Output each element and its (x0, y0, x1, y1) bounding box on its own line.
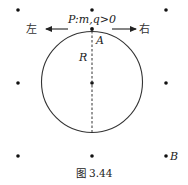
radius-label: R (78, 51, 87, 64)
field-dot (16, 154, 20, 158)
field-dot (90, 8, 94, 12)
left-label: 左 (26, 23, 37, 36)
particle-p (90, 27, 94, 31)
field-dot (90, 154, 94, 158)
figure-caption: 图 3.44 (76, 167, 113, 179)
right-label: 右 (139, 22, 150, 36)
field-dot-b (164, 154, 168, 158)
point-b-label: B (169, 150, 178, 163)
physics-diagram: P:m,q>0 左 右 A R B 图 3.44 (0, 0, 188, 185)
field-dot (164, 81, 168, 85)
field-dot (16, 81, 20, 85)
field-dot (164, 8, 168, 12)
point-a-label: A (95, 34, 104, 47)
field-dot (16, 8, 20, 12)
particle-label: P:m,q>0 (67, 13, 116, 26)
